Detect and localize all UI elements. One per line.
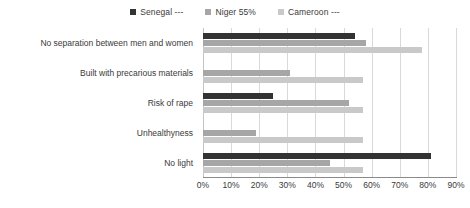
legend-swatch-cameroon [278,9,284,15]
x-tick-label: 70% [391,180,408,190]
x-tick-label: 20% [251,180,268,190]
y-axis-category-labels: No separation between men and womenBuilt… [0,28,198,178]
bar-group [203,148,456,178]
y-axis-label: Risk of rape [0,88,198,118]
x-tick-label: 40% [307,180,324,190]
bar-groups [203,28,456,178]
x-tick-label: 10% [223,180,240,190]
bar-chart: Senegal --- Niger 55% Cameroon --- No se… [0,0,470,208]
x-tick-label: 50% [335,180,352,190]
bar-track [203,88,456,118]
x-tick-label: 60% [363,180,380,190]
bar[interactable] [203,137,363,143]
y-axis-label: Built with precarious materials [0,58,198,88]
bar-group [203,58,456,88]
bar[interactable] [203,33,355,39]
x-axis-line [203,177,457,178]
bar[interactable] [203,100,349,106]
bar[interactable] [203,70,290,76]
gridline-90pct [456,28,457,178]
bar[interactable] [203,167,363,173]
bar-track [203,148,456,178]
legend-label-cameroon: Cameroon --- [288,7,340,17]
legend-item-senegal[interactable]: Senegal --- [130,7,183,17]
y-axis-label: No separation between men and women [0,28,198,58]
bar[interactable] [203,47,422,53]
bar[interactable] [203,40,366,46]
bar[interactable] [203,107,363,113]
bar[interactable] [203,160,330,166]
chart-legend: Senegal --- Niger 55% Cameroon --- [0,7,470,17]
legend-label-niger: Niger 55% [215,7,256,17]
x-tick-label: 80% [419,180,436,190]
x-tick-label: 90% [447,180,464,190]
bar-group [203,88,456,118]
x-tick-label: 0% [197,180,209,190]
x-axis-tick-labels: 0%10%20%30%40%50%60%70%80%90% [203,180,456,194]
bar[interactable] [203,153,431,159]
legend-label-senegal: Senegal --- [140,7,183,17]
bar[interactable] [203,93,273,99]
bar[interactable] [203,130,256,136]
bar-track [203,28,456,58]
legend-item-cameroon[interactable]: Cameroon --- [278,7,340,17]
y-axis-label: Unhealthyness [0,118,198,148]
bar[interactable] [203,77,363,83]
bar-track [203,58,456,88]
bar-track [203,118,456,148]
x-tick-label: 30% [279,180,296,190]
legend-swatch-niger [205,9,211,15]
legend-swatch-senegal [130,9,136,15]
bar-group [203,28,456,58]
legend-item-niger[interactable]: Niger 55% [205,7,256,17]
bar-group [203,118,456,148]
y-axis-label: No light [0,148,198,178]
